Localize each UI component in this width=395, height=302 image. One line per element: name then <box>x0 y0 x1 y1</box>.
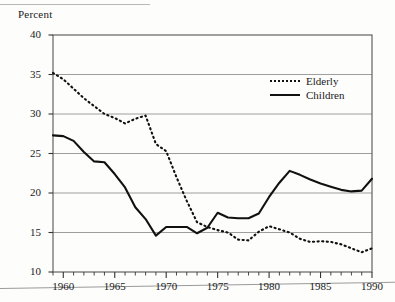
y-axis-tick-label: 40 <box>15 28 41 40</box>
legend-label-children: Children <box>306 89 345 101</box>
legend-swatch-children-icon <box>270 90 300 100</box>
x-axis-tick-label: 1970 <box>144 280 188 292</box>
y-axis-tick-label: 30 <box>15 107 41 119</box>
x-axis-ticks <box>53 272 372 278</box>
x-axis-tick-label: 1990 <box>350 280 394 292</box>
legend-label-elderly: Elderly <box>306 75 338 87</box>
x-axis-tick-label: 1960 <box>41 280 85 292</box>
y-axis-tick-label: 10 <box>15 265 41 277</box>
legend-swatch-elderly-icon <box>270 76 300 86</box>
plot-area <box>0 0 395 302</box>
x-axis-tick-label: 1975 <box>196 280 240 292</box>
legend-item-children: Children <box>270 88 345 102</box>
y-axis-tick-label: 35 <box>15 68 41 80</box>
series-line-children <box>53 135 372 235</box>
chart-legend: Elderly Children <box>270 74 345 102</box>
x-axis-tick-label: 1985 <box>299 280 343 292</box>
chart-figure: Percent 40353025201510 19601965197019751… <box>0 0 395 302</box>
y-axis-tick-label: 20 <box>15 186 41 198</box>
y-axis-tick-label: 25 <box>15 147 41 159</box>
x-axis-tick-label: 1980 <box>247 280 291 292</box>
x-axis-tick-label: 1965 <box>93 280 137 292</box>
y-axis-ticks <box>49 35 54 272</box>
legend-item-elderly: Elderly <box>270 74 345 88</box>
y-axis-tick-label: 15 <box>15 226 41 238</box>
